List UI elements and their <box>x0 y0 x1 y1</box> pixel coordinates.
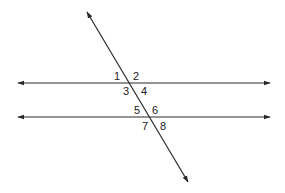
angle-label-2: 2 <box>133 70 139 82</box>
parallel-lines-transversal-diagram: 1 2 3 4 5 6 7 8 <box>0 0 285 193</box>
angle-label-1: 1 <box>114 70 120 82</box>
angle-label-7: 7 <box>142 120 148 132</box>
transversal-line <box>87 12 188 182</box>
angle-label-3: 3 <box>123 85 129 97</box>
angle-label-5: 5 <box>134 104 140 116</box>
angle-label-6: 6 <box>152 104 158 116</box>
angle-label-4: 4 <box>141 85 147 97</box>
angle-label-8: 8 <box>160 120 166 132</box>
